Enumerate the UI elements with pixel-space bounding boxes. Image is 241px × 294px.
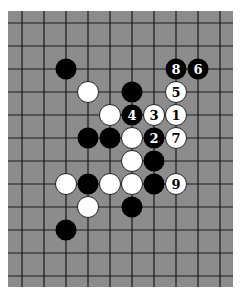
white-stone-icon: [122, 174, 143, 195]
black-stone: [56, 59, 77, 80]
white-stone-9: 9: [166, 174, 187, 195]
black-stone-icon: [144, 174, 165, 195]
move-number: 5: [171, 85, 180, 100]
go-board-diagram: 865431279: [0, 0, 241, 294]
white-stone-7: 7: [166, 128, 187, 149]
white-stone-icon: [78, 82, 99, 103]
black-stone-icon: [144, 151, 165, 172]
board-background: [8, 11, 233, 287]
black-stone-4: 4: [122, 105, 143, 126]
black-stone-icon: [78, 174, 99, 195]
move-number: 6: [193, 62, 202, 77]
white-stone: [56, 174, 77, 195]
move-number: 4: [127, 108, 136, 123]
white-stone: [122, 151, 143, 172]
black-stone-2: 2: [144, 128, 165, 149]
white-stone-icon: [100, 174, 121, 195]
white-stone-icon: [122, 128, 143, 149]
black-stone: [78, 128, 99, 149]
white-stone-5: 5: [166, 82, 187, 103]
move-number: 7: [171, 131, 180, 146]
black-stone: [122, 197, 143, 218]
black-stone: [144, 174, 165, 195]
white-stone-icon: [100, 105, 121, 126]
white-stone: [100, 105, 121, 126]
white-stone: [100, 174, 121, 195]
move-number: 8: [171, 62, 180, 77]
move-number: 9: [171, 177, 180, 192]
white-stone-3: 3: [144, 105, 165, 126]
black-stone: [56, 220, 77, 241]
move-number: 2: [149, 131, 158, 146]
black-stone-8: 8: [166, 59, 187, 80]
white-stone: [78, 82, 99, 103]
black-stone: [78, 174, 99, 195]
black-stone: [100, 128, 121, 149]
black-stone: [122, 82, 143, 103]
black-stone-icon: [56, 220, 77, 241]
black-stone-icon: [78, 128, 99, 149]
black-stone-icon: [122, 82, 143, 103]
white-stone-1: 1: [166, 105, 187, 126]
white-stone: [78, 197, 99, 218]
white-stone: [122, 174, 143, 195]
move-number: 1: [171, 108, 180, 123]
white-stone-icon: [56, 174, 77, 195]
black-stone-icon: [122, 197, 143, 218]
white-stone-icon: [122, 151, 143, 172]
white-stone-icon: [78, 197, 99, 218]
move-number: 3: [149, 108, 158, 123]
go-board: 865431279: [0, 0, 241, 294]
black-stone: [144, 151, 165, 172]
black-stone-icon: [56, 59, 77, 80]
white-stone: [122, 128, 143, 149]
black-stone-icon: [100, 128, 121, 149]
black-stone-6: 6: [188, 59, 209, 80]
